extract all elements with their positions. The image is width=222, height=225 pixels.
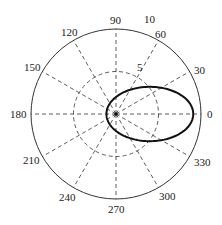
- theta-label-270: 270: [108, 203, 125, 215]
- r-label-5: 5: [137, 61, 143, 73]
- theta-gridline-150: [42, 72, 116, 115]
- theta-gridline-300: [116, 114, 159, 188]
- polar-chart: 0 30 60 90 120 150 180 210 240 270 300 3…: [0, 0, 222, 225]
- theta-label-300: 300: [159, 190, 176, 202]
- theta-label-0: 0: [207, 108, 213, 120]
- theta-label-120: 120: [61, 26, 78, 38]
- theta-label-150: 150: [24, 61, 41, 73]
- theta-label-210: 210: [23, 154, 40, 166]
- theta-gridline-210: [42, 114, 116, 157]
- theta-label-240: 240: [59, 191, 76, 203]
- theta-label-90: 90: [110, 14, 122, 26]
- origin-marker: [114, 112, 118, 116]
- theta-gridline-60: [116, 40, 159, 114]
- theta-label-180: 180: [10, 108, 27, 120]
- r-label-10: 10: [144, 13, 156, 25]
- theta-label-30: 30: [194, 64, 206, 76]
- theta-label-330: 330: [194, 156, 211, 168]
- theta-label-60: 60: [155, 28, 167, 40]
